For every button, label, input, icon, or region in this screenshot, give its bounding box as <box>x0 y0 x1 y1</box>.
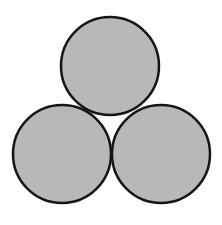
circle-bottom-left <box>13 105 111 203</box>
circle-bottom-right <box>112 105 210 203</box>
circle-top <box>61 17 159 115</box>
circle-packing-diagram <box>0 0 222 225</box>
